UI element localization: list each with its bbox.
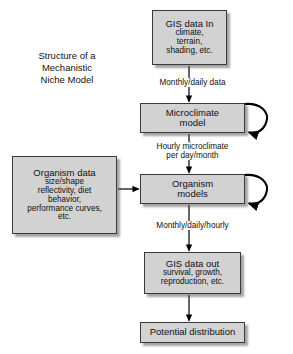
node-organism-data: Organism data size/shape reflectivity, d…	[12, 156, 117, 234]
node-organism-models-title: models	[177, 189, 208, 199]
edge-label-line: per day/month	[136, 151, 249, 160]
edge-label-monthly-daily-data: Monthly/daily data	[139, 78, 246, 87]
node-microclimate-model-title: model	[180, 118, 206, 128]
diagram-title: Structure of a Mechanistic Niche Model	[12, 50, 122, 86]
node-gis-data-out-detail: reproduction, etc.	[161, 278, 224, 287]
node-gis-data-in-detail: shading, etc.	[166, 47, 212, 56]
edge-label-line: Hourly microclimate	[136, 142, 249, 151]
node-microclimate-model: Microclimate model	[140, 103, 245, 133]
edge-label-line: Monthly/daily/hourly	[136, 221, 249, 230]
node-potential-distribution: Potential distribution	[140, 322, 245, 343]
diagram-title-line: Mechanistic	[12, 62, 122, 74]
node-gis-data-out: GIS data out survival, growth, reproduct…	[144, 252, 241, 294]
node-organism-models: Organism models	[140, 174, 245, 204]
edge-label-line: Monthly/daily data	[139, 78, 246, 87]
edge-label-monthly-daily-hourly: Monthly/daily/hourly	[136, 221, 249, 230]
node-gis-data-in: GIS data In climate, terrain, shading, e…	[152, 10, 227, 65]
diagram-title-line: Niche Model	[12, 74, 122, 86]
node-potential-distribution-title: Potential distribution	[150, 327, 236, 337]
edge-label-hourly-microclimate: Hourly microclimate per day/month	[136, 142, 249, 160]
node-organism-data-detail: etc.	[58, 213, 71, 222]
diagram-title-line: Structure of a	[12, 50, 122, 62]
diagram-canvas: Structure of a Mechanistic Niche Model G…	[0, 0, 293, 354]
